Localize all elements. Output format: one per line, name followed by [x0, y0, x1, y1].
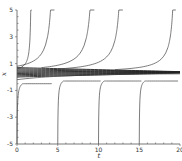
blowup-curve: [58, 10, 123, 69]
x-tick-label: 5: [56, 146, 60, 153]
y-tick-label: -5: [7, 140, 13, 147]
blowup-curve: [17, 10, 32, 69]
y-axis-label: x: [0, 72, 8, 76]
x-tick-label: 20: [176, 146, 182, 153]
rising-curve: [17, 84, 52, 144]
blowup-curve: [115, 10, 176, 70]
y-tick-label: -3: [7, 113, 13, 120]
blowup-curve: [17, 10, 54, 66]
x-tick-label: 0: [15, 146, 19, 153]
x-axis-label: t: [98, 152, 101, 160]
y-tick-label: 5: [9, 6, 13, 13]
plot-area: [17, 10, 180, 144]
y-tick-label: -1: [7, 86, 13, 93]
blowup-curve: [41, 10, 94, 68]
x-tick-label: 15: [135, 146, 143, 153]
rising-curve: [99, 81, 142, 144]
y-tick-label: 1: [9, 60, 13, 67]
rising-curve: [139, 81, 178, 144]
chart: 05101520 -5-3-1135 t x: [0, 0, 182, 161]
y-tick-label: 3: [9, 33, 13, 40]
rising-curve: [58, 81, 101, 144]
